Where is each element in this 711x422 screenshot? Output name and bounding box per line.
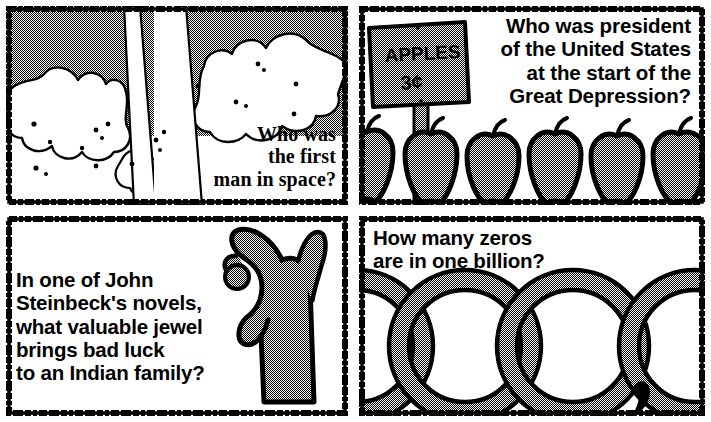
panel-space-caption: Who was the first man in space? — [214, 123, 336, 191]
pearl-jewel — [225, 265, 249, 289]
panel-billion: How many zeros are in one billion? — [359, 216, 705, 416]
sign-text-price: 3¢ — [400, 70, 424, 93]
panel-president-caption: Who was president of the United States a… — [501, 14, 692, 107]
apples-sign: APPLES 3¢ — [369, 22, 469, 107]
comic-sheet: Who was the first man in space? — [0, 0, 711, 422]
panel-steinbeck: In one of John Steinbeck's novels, what … — [6, 216, 348, 416]
panel-billion-caption: How many zeros are in one billion? — [373, 226, 545, 273]
panel-space: Who was the first man in space? — [6, 6, 348, 205]
panel-steinbeck-caption: In one of John Steinbeck's novels, what … — [16, 268, 205, 385]
sign-text-apples: APPLES — [384, 41, 461, 66]
panel-president: APPLES 3¢ — [359, 6, 705, 205]
